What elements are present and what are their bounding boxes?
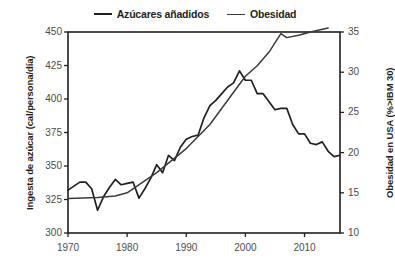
y-tick-label-right: 30 xyxy=(348,67,378,77)
y-tick-label-right: 20 xyxy=(348,148,378,158)
y-tick-label-left: 375 xyxy=(22,128,62,138)
y-tick-label-right: 25 xyxy=(348,107,378,117)
x-tick-label: 1990 xyxy=(164,243,208,253)
x-tick-label: 2000 xyxy=(223,243,267,253)
plot-frame xyxy=(68,32,340,233)
x-tick-label: 1980 xyxy=(105,243,149,253)
y-tick-label-left: 450 xyxy=(22,27,62,37)
y-tick-label-left: 350 xyxy=(22,161,62,171)
y-tick-label-left: 400 xyxy=(22,94,62,104)
y-tick-label-left: 325 xyxy=(22,195,62,205)
x-tick-label: 2010 xyxy=(283,243,327,253)
x-tick-label: 1970 xyxy=(46,243,90,253)
series-line-azucares-anadidos xyxy=(68,71,340,210)
y-tick-label-right: 15 xyxy=(348,188,378,198)
y-tick-label-left: 300 xyxy=(22,228,62,238)
y-tick-label-right: 10 xyxy=(348,228,378,238)
y-tick-label-right: 35 xyxy=(348,27,378,37)
y-tick-label-left: 425 xyxy=(22,61,62,71)
